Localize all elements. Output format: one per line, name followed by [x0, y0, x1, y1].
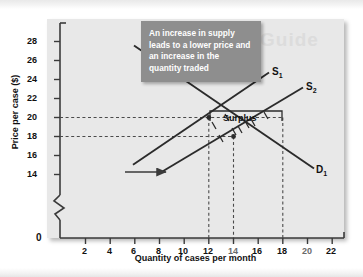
- page-top-band: [0, 0, 363, 9]
- y-axis: [54, 23, 66, 238]
- y-tick-22: 22: [27, 93, 37, 103]
- curve-label-s1-sub: 1: [279, 72, 283, 79]
- curve-label-s1: S1: [272, 66, 283, 79]
- dashed-guides: [60, 118, 283, 239]
- y-tick-16: 16: [27, 150, 37, 160]
- y-tick-18: 18: [27, 131, 37, 141]
- y-tick-26: 26: [27, 55, 37, 65]
- y-tick-14: 14: [27, 169, 37, 179]
- curve-label-d1: D1: [316, 164, 327, 177]
- surplus-label: Surplus: [223, 113, 257, 123]
- curve-label-s2: S2: [306, 81, 317, 94]
- x-axis: [60, 232, 344, 244]
- x-axis-title: Quantity of cases per month: [47, 253, 344, 263]
- equilibrium-marker-new: [231, 134, 236, 139]
- y-axis-title: Price per case ($): [10, 67, 20, 157]
- y-tick-0: 0: [36, 232, 42, 243]
- curve-label-d1-sub: 1: [323, 170, 327, 177]
- figure-container: Study Guide: [0, 9, 363, 268]
- y-tick-20: 20: [27, 112, 37, 122]
- curve-label-s1-text: S: [272, 66, 279, 77]
- curve-label-s2-sub: 2: [313, 87, 317, 94]
- equilibrium-marker-initial: [206, 115, 211, 120]
- y-tick-24: 24: [27, 74, 37, 84]
- page-bottom-band: [0, 268, 363, 277]
- supply-curve-s2: [159, 88, 303, 174]
- y-tick-28: 28: [27, 36, 37, 46]
- callout-box: An increase in supply leads to a lower p…: [141, 21, 261, 82]
- curve-label-s2-text: S: [306, 81, 313, 92]
- y-axis-break-icon: [54, 195, 64, 220]
